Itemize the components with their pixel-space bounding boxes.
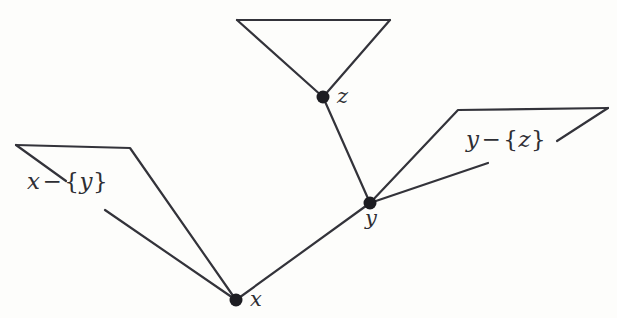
set-label-y-minus-z-lhs: y: [466, 126, 480, 152]
figure-root: x y z x−{y} y−{z}: [0, 0, 617, 318]
diagram-canvas: [0, 0, 617, 318]
edge-x-y: [236, 203, 370, 300]
set-label-x-minus-y-rhs: y: [79, 168, 93, 194]
leader-x-minus-y-bottom-line: [105, 210, 236, 300]
set-label-y-minus-z-close-brace: }: [531, 126, 546, 152]
vertex-dot-z: [317, 91, 330, 104]
set-label-x-minus-y: x−{y}: [27, 170, 108, 193]
set-label-x-minus-y-lhs: x: [27, 168, 40, 194]
leader-y-minus-z-top-line: [557, 108, 608, 141]
vertex-label-y: y: [365, 208, 377, 229]
set-label-y-minus-z-operator: −: [480, 126, 504, 152]
bracket-y-minus-z: [370, 108, 608, 203]
bracket-subtree-z: [237, 20, 390, 97]
set-label-y-minus-z: y−{z}: [466, 128, 546, 151]
set-label-x-minus-y-operator: −: [40, 168, 64, 194]
bracket-group: [16, 20, 608, 300]
vertex-label-x: x: [250, 289, 262, 310]
edge-group: [236, 97, 370, 300]
set-label-x-minus-y-open-brace: {: [64, 168, 79, 194]
set-label-y-minus-z-open-brace: {: [503, 126, 518, 152]
vertex-dot-x: [230, 294, 243, 307]
set-label-y-minus-z-rhs: z: [518, 126, 531, 152]
set-label-x-minus-y-close-brace: }: [93, 168, 108, 194]
edge-z-y: [323, 97, 370, 203]
vertex-dot-group: [230, 91, 377, 307]
vertex-label-z: z: [337, 86, 348, 107]
